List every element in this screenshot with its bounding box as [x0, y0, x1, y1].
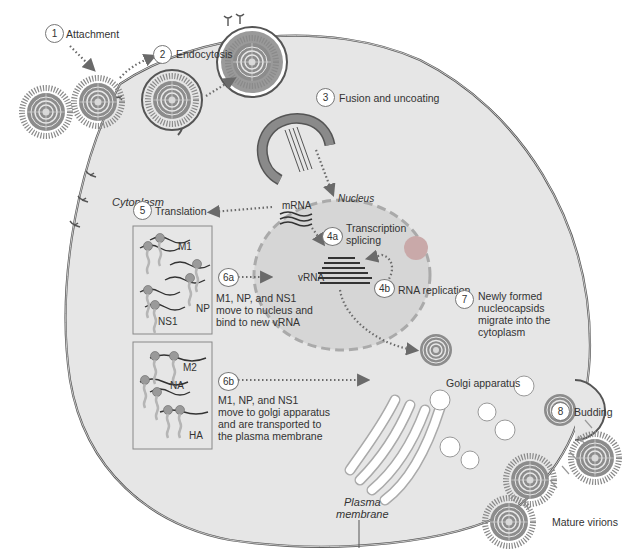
step-5-badge: 5: [133, 201, 152, 220]
step-4a-badge: 4a: [322, 227, 343, 246]
step-4b-badge: 4b: [374, 279, 395, 298]
step-1-label: Attachment: [66, 28, 119, 40]
mrna-label: mRNA: [282, 200, 311, 212]
nucleus-label: Nucleus: [338, 193, 374, 205]
vrna-label: vRNA: [298, 272, 324, 284]
step-6b-label-1: M1, NP, and NS1: [218, 394, 298, 406]
step-7-badge: 7: [455, 290, 474, 309]
protein-ns1-label: NS1: [158, 316, 177, 327]
step-6a-label-2: move to nucleus and: [216, 304, 313, 316]
new-nucleocapsid: [420, 334, 452, 366]
step-3-badge: 3: [316, 88, 335, 107]
protein-ha-label: HA: [189, 430, 203, 441]
step-8-badge: 8: [551, 402, 570, 421]
free-virion: [22, 88, 70, 136]
mature-virion-2: [571, 434, 619, 482]
influenza-replication-diagram: Cytoplasm Nucleus Plasma membrane Golgi …: [0, 0, 644, 556]
protein-m1-label: M1: [178, 241, 192, 252]
step-7-label-2: nucleocapsids: [478, 302, 545, 314]
protein-m2-label: M2: [183, 362, 197, 373]
step-8-label: Budding: [574, 406, 613, 418]
mature-virions-label: Mature virions: [552, 516, 618, 528]
step-6a-label-1: M1, NP, and NS1: [216, 292, 296, 304]
step-7-label-1: Newly formed: [478, 290, 542, 302]
step-4a-label-1: Transcription: [346, 222, 406, 234]
plasma-label-line1: Plasma: [344, 496, 381, 508]
step-6b-label-2: move to golgi apparatus: [218, 406, 330, 418]
arrow-attach: [70, 46, 92, 68]
step-4a-label-2: splicing: [346, 234, 381, 246]
step-7-label-4: cytoplasm: [478, 326, 525, 338]
step-6a-label-3: bind to new vRNA: [216, 316, 300, 328]
protein-na-label: NA: [170, 380, 184, 391]
step-6a-badge: 6a: [218, 268, 239, 287]
step-6b-label-4: the plasma membrane: [218, 430, 322, 442]
step-1-badge: 1: [45, 24, 64, 43]
step-6b-label-3: and are transported to: [218, 418, 321, 430]
golgi-label: Golgi apparatus: [446, 377, 520, 389]
protein-np-label: NP: [196, 303, 210, 314]
nucleolus: [404, 236, 428, 260]
step-2-label: Endocytosis: [176, 48, 233, 60]
plasma-label-line2: membrane: [336, 508, 389, 520]
step-3-label: Fusion and uncoating: [339, 92, 439, 104]
step-5-label: Translation: [155, 205, 207, 217]
step-6b-badge: 6b: [218, 372, 239, 391]
step-7-label-3: migrate into the: [478, 314, 550, 326]
step-2-badge: 2: [153, 45, 172, 64]
